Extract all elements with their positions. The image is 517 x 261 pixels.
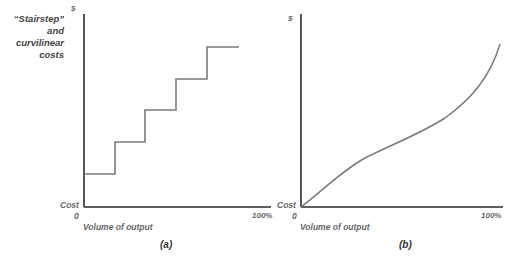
- chart-a-dollar-label: $: [71, 4, 75, 13]
- chart-b-100-label: 100%: [481, 211, 501, 220]
- chart-b-zero-label: 0: [292, 211, 297, 221]
- chart-b-cost-label: Cost: [277, 200, 296, 210]
- chart-a-cost-label: Cost: [60, 200, 79, 210]
- chart-a-stairstep-line: [84, 47, 239, 174]
- chart-a-zero-label: 0: [74, 211, 79, 221]
- chart-a-panel-label: (a): [160, 239, 172, 250]
- chart-b-x-axis-label: Volume of output: [300, 222, 370, 232]
- charts-canvas: [0, 0, 517, 261]
- chart-a-100-label: 100%: [252, 211, 272, 220]
- chart-a-x-axis-label: Volume of output: [83, 222, 153, 232]
- chart-b-panel-label: (b): [399, 239, 412, 250]
- chart-b-axes: [301, 14, 503, 207]
- chart-b-dollar-label: $: [288, 14, 292, 23]
- chart-a-axes: [84, 14, 271, 207]
- chart-b-curvilinear-line: [301, 44, 500, 207]
